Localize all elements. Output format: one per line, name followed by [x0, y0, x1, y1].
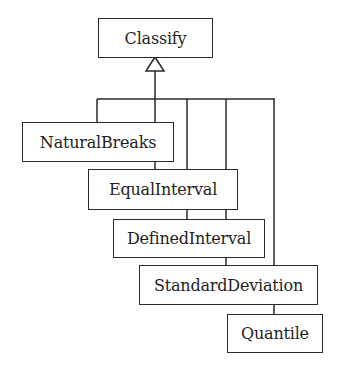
class-box-natural-breaks: NaturalBreaks — [22, 122, 174, 162]
class-label: DefinedInterval — [127, 229, 251, 248]
class-box-equal-interval: EqualInterval — [88, 169, 238, 210]
class-label: EqualInterval — [109, 180, 217, 199]
class-label: NaturalBreaks — [40, 133, 156, 152]
class-hierarchy-diagram: Classify NaturalBreaks EqualInterval Def… — [0, 0, 339, 368]
class-box-quantile: Quantile — [227, 314, 323, 353]
class-label: Quantile — [241, 324, 309, 343]
class-label: Classify — [125, 29, 187, 48]
class-box-classify: Classify — [98, 18, 213, 58]
hollow-triangle-icon — [146, 57, 164, 71]
class-box-defined-interval: DefinedInterval — [113, 219, 265, 258]
class-label: StandardDeviation — [154, 276, 303, 295]
class-box-standard-deviation: StandardDeviation — [139, 265, 318, 305]
